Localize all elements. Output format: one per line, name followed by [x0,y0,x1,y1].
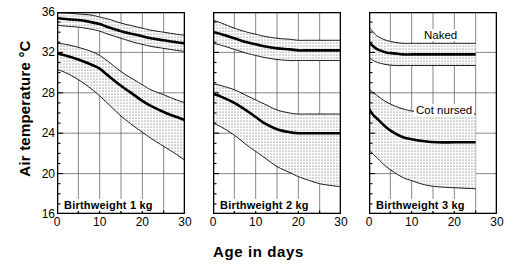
figure: Air temperature °C 363228242016 Age in d… [0,0,517,271]
x-tick-label: 0 [42,216,72,228]
chart-panel-1: Birthweight 1 kg [57,12,185,214]
x-tick-label: 30 [482,216,512,228]
x-tick-label: 10 [397,216,427,228]
x-tick-label: 10 [85,216,115,228]
panel-caption: Birthweight 3 kg [375,199,467,211]
y-tick-label: 28 [29,87,55,99]
y-tick-label: 24 [29,127,55,139]
panel-caption: Birthweight 2 kg [219,199,311,211]
x-tick-label: 10 [241,216,271,228]
x-tick-label: 30 [326,216,356,228]
y-tick-label: 20 [29,168,55,180]
chart-panel-2: Birthweight 2 kg [213,12,341,214]
annotation-naked: Naked [422,29,459,41]
plot-area [213,12,341,214]
x-tick-label: 20 [283,216,313,228]
plot-area [57,12,185,214]
y-tick-label: 32 [29,46,55,58]
x-tick-label: 20 [127,216,157,228]
x-tick-label: 20 [439,216,469,228]
x-tick-label: 0 [354,216,384,228]
annotation-cot-nursed: Cot nursed [414,104,474,116]
x-tick-label: 0 [198,216,228,228]
x-axis-label: Age in days [0,243,517,260]
panel-caption: Birthweight 1 kg [63,199,155,211]
y-axis-tick-labels: 363228242016 [29,0,55,271]
x-tick-label: 30 [170,216,200,228]
y-tick-label: 36 [29,6,55,18]
